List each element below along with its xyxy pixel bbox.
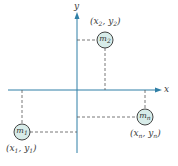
mass-n-coordinates: (xn, yn) (130, 129, 161, 139)
y-axis-arrow-icon (75, 12, 80, 19)
mass-1-label: m1 (14, 127, 30, 136)
x-axis-arrow-icon (155, 88, 162, 93)
y-axis-label: y (74, 2, 79, 11)
x-axis-label: x (164, 85, 169, 94)
center-of-mass-diagram: y x m2 m1 mn (x2, y2) (x1, y1) (xn, yn) (0, 0, 178, 166)
mass-n-label: mn (137, 112, 153, 121)
mass-2-coordinates: (x2, y2) (90, 17, 121, 27)
diagram-graphics (0, 0, 178, 166)
mass-2-label: m2 (97, 35, 113, 44)
mass-1-coordinates: (x1, y1) (6, 144, 37, 154)
